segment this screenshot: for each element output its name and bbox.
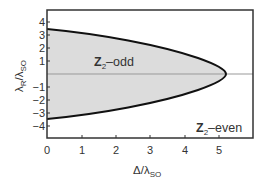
- y-tick-label: 4: [39, 16, 45, 28]
- x-tick-label: 5: [216, 144, 222, 156]
- y-tick-label: 1: [39, 55, 45, 67]
- y-tick-label: −1: [32, 81, 45, 93]
- y-tick-label: −4: [32, 120, 45, 132]
- phase-diagram-chart: 4 3 2 1 −1 −2 −3 −4 0 1 2 3 4 5 Δ/λSO λR…: [0, 0, 268, 183]
- y-tick-label: 3: [39, 29, 45, 41]
- x-axis-label: Δ/λSO: [133, 164, 161, 179]
- y-tick-label: −2: [32, 94, 45, 106]
- y-tick-label: 2: [39, 42, 45, 54]
- x-tick-label: 1: [79, 144, 85, 156]
- x-tick-label: 4: [182, 144, 188, 156]
- x-tick-label: 2: [113, 144, 119, 156]
- y-tick-label: −3: [32, 107, 45, 119]
- x-tick-label: 3: [147, 144, 153, 156]
- y-tick-labels: 4 3 2 1 −1 −2 −3 −4: [32, 16, 45, 132]
- z2-even-label: Z2–even: [196, 121, 242, 137]
- x-tick-labels: 0 1 2 3 4 5: [44, 144, 222, 156]
- y-axis-label: λR/λSO: [13, 60, 28, 92]
- x-tick-label: 0: [44, 144, 50, 156]
- z2-odd-label: Z2–odd: [94, 55, 134, 71]
